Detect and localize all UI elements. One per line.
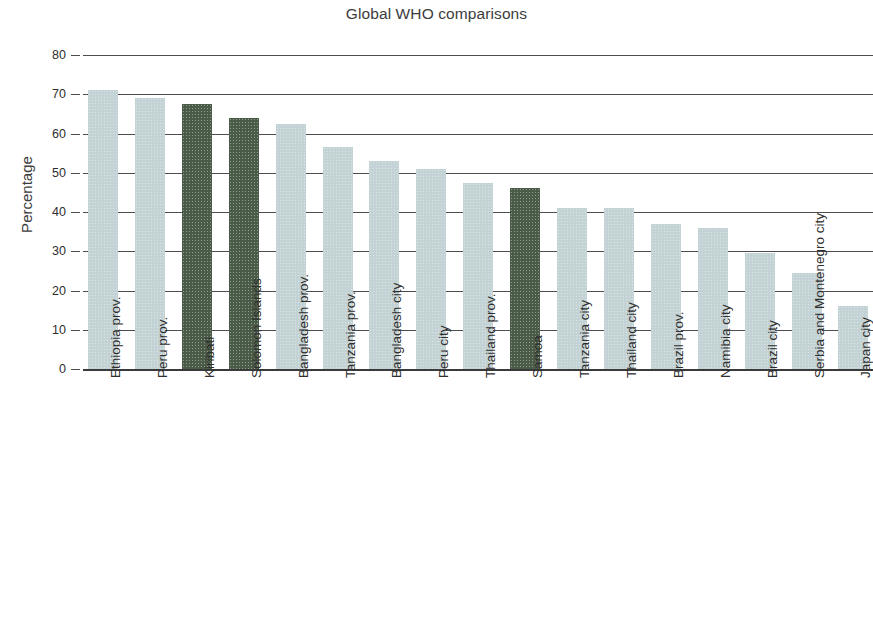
y-tick-mark-70 [71,94,80,95]
x-tick-label: Bangladesh prov. [297,274,311,378]
y-tick-label-60: 60 [26,128,66,141]
y-tick-mark-80 [71,55,80,56]
x-tick-label: Japan city [859,317,873,378]
y-tick-label-30: 30 [26,245,66,258]
x-tick-label: Brazil prov. [672,311,686,378]
x-tick-label: Peru prov. [156,317,170,378]
y-tick-label-20: 20 [26,285,66,298]
y-tick-mark-10 [71,330,80,331]
x-tick-label: Tanzania prov. [344,291,358,378]
x-tick-label: Solomon Islands [250,278,264,378]
gridline-80 [83,55,873,56]
y-tick-mark-30 [71,251,80,252]
x-tick-label: Tanzania city [578,300,592,378]
y-tick-label-80: 80 [26,49,66,62]
bar-chart-figure: Global WHO comparisons Percentage 010203… [0,0,873,627]
y-tick-mark-0 [71,369,80,370]
chart-title: Global WHO comparisons [0,5,873,23]
x-tick-label: Ethiopia prov. [109,296,123,378]
y-axis-title: Percentage [18,135,35,255]
x-tick-label: Thailand prov. [484,293,498,378]
x-tick-label: Kiribati [203,337,217,378]
y-tick-mark-50 [71,173,80,174]
x-tick-label: Peru city [437,325,451,378]
y-tick-mark-60 [71,134,80,135]
x-tick-label: Serbia and Montenegro city [813,213,827,378]
x-tick-label: Samoa [531,335,545,378]
y-tick-mark-40 [71,212,80,213]
y-tick-mark-20 [71,291,80,292]
x-tick-label: Brazil city [766,320,780,378]
y-tick-label-70: 70 [26,88,66,101]
x-tick-label: Bangladesh city [390,283,404,378]
plot-area: 01020304050607080 [83,55,873,369]
gridline-70 [83,94,873,95]
y-tick-label-0: 0 [26,363,66,376]
x-tick-label: Namibia city [719,304,733,378]
bar [182,104,212,369]
y-tick-label-40: 40 [26,206,66,219]
y-tick-label-10: 10 [26,324,66,337]
y-tick-label-50: 50 [26,167,66,180]
x-tick-label: Thailand city [625,302,639,378]
